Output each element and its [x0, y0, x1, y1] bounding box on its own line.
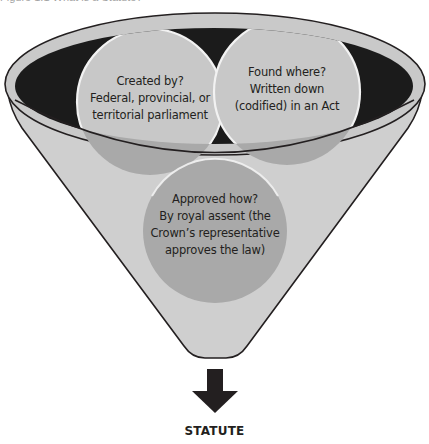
circle-created-by-line-2: Federal, provincial, or: [72, 90, 228, 107]
circle-found-where-line-3: (codified) in an Act: [211, 98, 363, 115]
circle-approved-how-line-4: approves the law): [139, 242, 291, 259]
result-label-statute: STATUTE: [0, 424, 429, 438]
circle-found-where: Found where? Written down (codified) in …: [211, 64, 363, 115]
circle-created-by-line-1: Created by?: [72, 73, 228, 90]
circle-approved-how-line-3: Crown’s representative: [139, 225, 291, 242]
circle-created-by: Created by? Federal, provincial, or terr…: [72, 73, 228, 124]
circle-created-by-line-3: territorial parliament: [72, 107, 228, 124]
circle-approved-how-line-1: Approved how?: [139, 191, 291, 208]
circle-approved-how: Approved how? By royal assent (the Crown…: [139, 191, 291, 259]
circle-found-where-line-2: Written down: [211, 81, 363, 98]
arrow-down-icon: [192, 369, 238, 413]
circle-approved-how-line-2: By royal assent (the: [139, 208, 291, 225]
circle-found-where-line-1: Found where?: [211, 64, 363, 81]
